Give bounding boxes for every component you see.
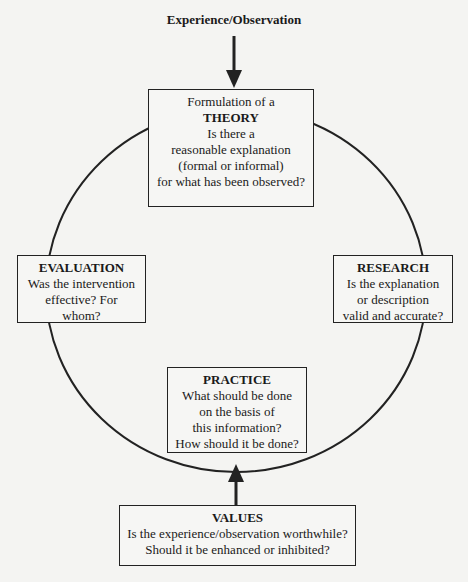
evaluation-box: EVALUATION Was the intervention effectiv… <box>17 255 146 323</box>
practice-line: on the basis of <box>168 404 306 420</box>
theory-line: Is there a <box>149 126 313 142</box>
theory-title: THEORY <box>149 110 313 126</box>
research-line: Is the explanation <box>334 276 452 292</box>
practice-title: PRACTICE <box>168 372 306 388</box>
practice-line: How should it be done? <box>168 436 306 452</box>
research-line: or description <box>334 292 452 308</box>
theory-line: for what has been observed? <box>149 174 313 190</box>
values-line: Should it be enhanced or inhibited? <box>120 542 355 558</box>
research-box: RESEARCH Is the explanation or descripti… <box>333 255 453 323</box>
research-line: valid and accurate? <box>334 308 452 324</box>
practice-line: What should be done <box>168 388 306 404</box>
theory-box: Formulation of a THEORY Is there a reaso… <box>148 89 314 207</box>
arrow-up-icon <box>228 464 244 482</box>
practice-box: PRACTICE What should be done on the basi… <box>167 367 307 453</box>
values-line: Is the experience/observation worthwhile… <box>120 526 355 542</box>
experience-observation-label: Experience/Observation <box>0 12 468 28</box>
evaluation-title: EVALUATION <box>18 260 145 276</box>
evaluation-line: Was the intervention <box>18 276 145 292</box>
practice-line: this information? <box>168 420 306 436</box>
research-title: RESEARCH <box>334 260 452 276</box>
values-title: VALUES <box>120 510 355 526</box>
evaluation-line: effective? For <box>18 292 145 308</box>
theory-intro: Formulation of a <box>149 94 313 110</box>
values-box: VALUES Is the experience/observation wor… <box>119 505 356 566</box>
theory-line: reasonable explanation <box>149 142 313 158</box>
evaluation-line: whom? <box>18 308 145 324</box>
theory-line: (formal or informal) <box>149 158 313 174</box>
arrow-down-icon <box>226 70 242 88</box>
